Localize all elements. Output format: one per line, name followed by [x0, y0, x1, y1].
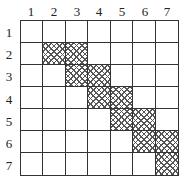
- row-label-3: 3: [3, 69, 15, 85]
- empty-cell: [133, 21, 155, 43]
- row-label-2: 2: [3, 47, 15, 63]
- hatched-cell: [111, 109, 133, 131]
- empty-cell: [88, 21, 110, 43]
- empty-cell: [66, 153, 88, 175]
- empty-cell: [156, 65, 178, 87]
- hatched-cell: [66, 65, 88, 87]
- hatched-cell: [88, 87, 110, 109]
- empty-cell: [21, 21, 43, 43]
- empty-cell: [43, 65, 65, 87]
- hatched-cell: [133, 131, 155, 153]
- hatched-cell: [43, 43, 65, 65]
- empty-cell: [21, 65, 43, 87]
- column-label-4: 4: [88, 4, 110, 20]
- hatched-cell: [156, 131, 178, 153]
- empty-cell: [133, 43, 155, 65]
- empty-cell: [66, 109, 88, 131]
- empty-cell: [111, 131, 133, 153]
- empty-cell: [43, 131, 65, 153]
- column-label-5: 5: [111, 4, 133, 20]
- row-label-5: 5: [3, 114, 15, 130]
- empty-cell: [111, 153, 133, 175]
- hatched-cell: [133, 109, 155, 131]
- row-label-4: 4: [3, 92, 15, 108]
- empty-cell: [21, 153, 43, 175]
- empty-cell: [88, 43, 110, 65]
- empty-cell: [111, 65, 133, 87]
- hatched-cell: [66, 43, 88, 65]
- empty-cell: [21, 109, 43, 131]
- row-label-7: 7: [3, 158, 15, 174]
- hatched-cell: [88, 65, 110, 87]
- empty-cell: [133, 65, 155, 87]
- empty-cell: [88, 153, 110, 175]
- column-label-7: 7: [156, 4, 178, 20]
- column-label-6: 6: [134, 4, 156, 20]
- empty-cell: [156, 21, 178, 43]
- row-label-6: 6: [3, 136, 15, 152]
- matrix-grid: [20, 20, 179, 176]
- empty-cell: [66, 131, 88, 153]
- empty-cell: [88, 109, 110, 131]
- empty-cell: [111, 43, 133, 65]
- empty-cell: [156, 87, 178, 109]
- empty-cell: [133, 87, 155, 109]
- hatched-cell: [111, 87, 133, 109]
- empty-cell: [156, 43, 178, 65]
- empty-cell: [88, 131, 110, 153]
- column-label-2: 2: [43, 4, 65, 20]
- hatched-cell: [156, 153, 178, 175]
- empty-cell: [43, 87, 65, 109]
- empty-cell: [21, 87, 43, 109]
- empty-cell: [111, 21, 133, 43]
- row-label-1: 1: [3, 25, 15, 41]
- empty-cell: [21, 43, 43, 65]
- empty-cell: [133, 153, 155, 175]
- empty-cell: [43, 153, 65, 175]
- column-label-1: 1: [20, 4, 42, 20]
- empty-cell: [43, 21, 65, 43]
- empty-cell: [156, 109, 178, 131]
- column-label-3: 3: [66, 4, 88, 20]
- empty-cell: [43, 109, 65, 131]
- empty-cell: [66, 87, 88, 109]
- empty-cell: [66, 21, 88, 43]
- empty-cell: [21, 131, 43, 153]
